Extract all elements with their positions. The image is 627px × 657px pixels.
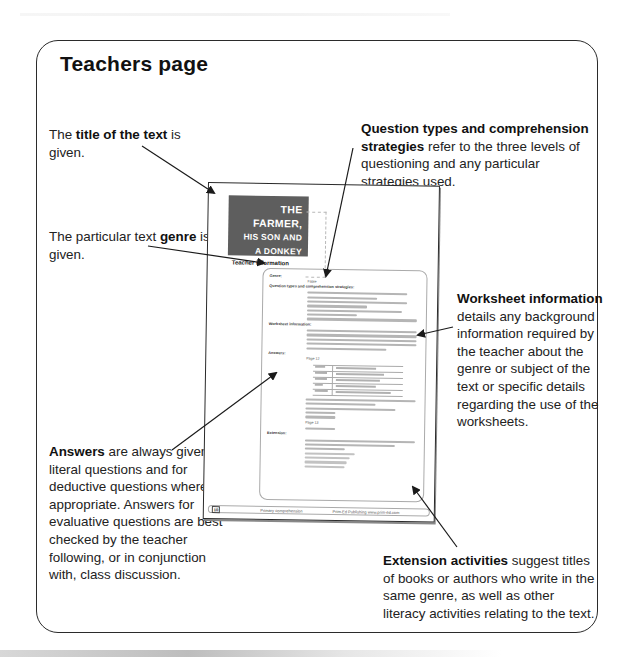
annotation-question-types: Question types and comprehension strateg… (361, 120, 591, 190)
text-line (306, 347, 386, 350)
text-title-banner: The farmer, his son and a donkey (228, 195, 309, 256)
banner-line: The farmer, (228, 201, 302, 230)
extension-heading: Extension: (267, 431, 418, 438)
text-line (305, 407, 395, 411)
answer-table (313, 365, 403, 397)
annotation-text: are always given for literal questions a… (49, 444, 228, 582)
text-line (306, 343, 416, 347)
text-line (307, 296, 377, 299)
page-number: 10 (212, 506, 221, 513)
text-line (307, 292, 407, 296)
page-footer: 10 Primary comprehension Prim-Ed Publish… (208, 505, 430, 516)
text-line (307, 318, 417, 322)
text-line (307, 314, 357, 317)
text-line (305, 439, 415, 443)
text-line (306, 398, 416, 402)
annotation-text: details any background information requi… (457, 309, 598, 430)
annotation-keyword: Worksheet information (457, 291, 603, 306)
annotation-keyword: Answers (49, 444, 105, 459)
annotation-worksheet-information: Worksheet information details any backgr… (457, 290, 607, 431)
annotation-keyword: Extension activities (383, 553, 508, 568)
banner-line: his son and (228, 229, 302, 244)
text-line (307, 305, 367, 308)
teacher-information-label: Teacher information (232, 259, 289, 266)
text-line (305, 465, 345, 468)
page-ref: Page 13 (305, 420, 418, 427)
banner-line: a donkey (228, 243, 302, 258)
annotation-text: The (49, 127, 76, 142)
teachers-page-diagram: Teachers page The title of the text is g… (0, 0, 627, 657)
annotation-text: The particular text (49, 229, 160, 244)
annotation-title-of-text: The title of the text is given. (49, 126, 219, 161)
page-ref: Page 12 (306, 356, 419, 363)
faint-bleed-line (20, 13, 450, 16)
page-title: Teachers page (60, 52, 208, 76)
text-line (305, 457, 350, 460)
text-line (305, 412, 335, 415)
question-types-heading: Question types and comprehension strateg… (269, 284, 420, 291)
annotation-keyword: title of the text (76, 127, 168, 142)
worksheet-info-heading: Worksheet information: (269, 322, 420, 329)
bottom-page-edge (0, 650, 627, 657)
text-line (305, 443, 395, 447)
text-line (305, 427, 335, 430)
worksheet-page-thumbnail: The farmer, his son and a donkey Teacher… (203, 182, 440, 523)
text-line (305, 448, 345, 451)
annotation-genre: The particular text genre is given. (49, 228, 219, 263)
text-line (305, 416, 335, 419)
footer-center-text: Primary comprehension (260, 507, 302, 513)
text-line (307, 338, 417, 342)
annotation-extension-activities: Extension activities suggest titles of b… (383, 552, 598, 622)
text-line (307, 334, 417, 338)
teacher-information-panel: Genre: Fable Question types and comprehe… (259, 268, 428, 503)
text-line (306, 403, 376, 406)
text-line (305, 461, 347, 464)
annotation-keyword: genre (160, 229, 196, 244)
footer-right-text: Prim-Ed Publishing www.prim-ed.com (333, 508, 400, 514)
text-line (305, 452, 355, 455)
text-line (307, 309, 402, 313)
text-line (307, 301, 407, 305)
table-row (313, 390, 403, 397)
text-line (307, 330, 417, 334)
